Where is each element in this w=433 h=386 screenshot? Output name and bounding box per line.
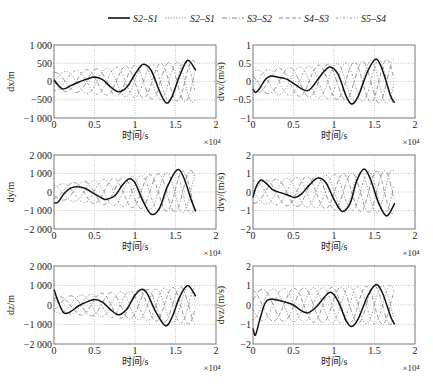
x-tick-label: 1 xyxy=(332,345,337,356)
y-tick-label: 0 xyxy=(246,300,251,311)
series-line-main xyxy=(54,285,196,325)
y-tick-label: 1 xyxy=(246,40,251,51)
x-tick-label: 1.5 xyxy=(169,230,182,241)
y-tick-label: 1 xyxy=(246,168,251,179)
y-tick-label: −2 xyxy=(240,339,251,350)
x-tick-label: 0.5 xyxy=(88,119,101,130)
y-tick-label: −2 000 xyxy=(24,224,52,235)
y-tick-label: 1 000 xyxy=(30,168,53,179)
plot-area xyxy=(253,45,415,118)
y-tick-label: 1 000 xyxy=(30,280,53,291)
x-axis-multiplier: ×10⁴ xyxy=(402,363,419,373)
x-tick-label: 2 xyxy=(413,345,418,356)
x-tick-label: 1.5 xyxy=(368,345,381,356)
x-axis-label: 时间/s xyxy=(122,355,149,367)
y-tick-label: 2 xyxy=(246,150,251,161)
x-tick-label: 1 xyxy=(332,230,337,241)
chart-legend: S2–S1S2–S1S3–S2S4–S3S5–S4 xyxy=(108,11,393,25)
legend-label: S4–S3 xyxy=(304,13,329,24)
y-tick-label: 0 xyxy=(47,76,52,87)
legend-line-dotted-icon xyxy=(165,15,187,21)
series-line-secondary xyxy=(54,172,195,214)
y-tick-label: 2 000 xyxy=(30,150,53,161)
x-tick-label: 1.5 xyxy=(368,230,381,241)
series-line-secondary xyxy=(253,60,394,103)
series-line-secondary xyxy=(253,61,394,104)
chart-dy: 00.511.52−2 000−1 00001 0002 000时间/s×10⁴… xyxy=(0,145,216,260)
y-axis-label: dz/m xyxy=(5,295,16,315)
x-tick-label: 0 xyxy=(251,230,256,241)
x-tick-label: 1.5 xyxy=(169,119,182,130)
chart-dz: 00.511.52−2 000−1 00001 0002 000时间/s×10⁴… xyxy=(0,256,216,376)
y-axis-label: dvz/(m/s) xyxy=(215,286,227,324)
y-tick-label: −1 xyxy=(240,319,251,330)
y-tick-label: 2 000 xyxy=(30,261,53,272)
legend-item: S5–S4 xyxy=(336,13,386,24)
chart-dvz: 00.511.52−2−1012时间/s×10⁴dvz/(m/s) xyxy=(216,256,433,376)
x-tick-label: 0.5 xyxy=(287,345,300,356)
y-tick-label: 0 xyxy=(246,76,251,87)
x-axis-label: 时间/s xyxy=(321,129,348,141)
x-axis-label: 时间/s xyxy=(321,240,348,252)
x-tick-label: 0.5 xyxy=(287,230,300,241)
x-tick-label: 1 xyxy=(133,119,138,130)
x-tick-label: 0 xyxy=(251,119,256,130)
y-tick-label: −2 000 xyxy=(24,339,52,350)
series-line-secondary xyxy=(54,61,195,100)
series-line-secondary xyxy=(54,286,195,322)
chart-dvy: 00.511.52−2−1012时间/s×10⁴dvy/(m/s) xyxy=(216,145,433,260)
legend-line-solid-icon xyxy=(108,15,130,21)
x-tick-label: 1 xyxy=(332,119,337,130)
y-tick-label: 500 xyxy=(37,58,52,69)
plot-area xyxy=(54,266,216,344)
legend-line-dashdot2-icon xyxy=(336,15,358,21)
legend-item: S4–S3 xyxy=(279,13,329,24)
series-line-secondary xyxy=(54,170,195,212)
x-axis-label: 时间/s xyxy=(321,355,348,367)
x-tick-label: 1 xyxy=(133,230,138,241)
y-tick-label: 0 xyxy=(246,187,251,198)
chart-dx: 00.511.52−1 000−50005001 000时间/s×10⁴dx/m xyxy=(0,30,216,145)
y-axis-label: dvy/(m/s) xyxy=(215,173,227,212)
legend-label: S3–S2 xyxy=(247,13,272,24)
legend-item: S2–S1 xyxy=(165,13,215,24)
y-axis-label: dy/m xyxy=(5,182,16,203)
x-axis-label: 时间/s xyxy=(122,240,149,252)
x-tick-label: 2 xyxy=(413,230,418,241)
series-line-secondary xyxy=(54,173,195,213)
plot-area xyxy=(54,45,216,118)
y-tick-label: 1 000 xyxy=(30,40,53,51)
plot-area xyxy=(253,266,415,344)
legend-label: S2–S1 xyxy=(133,13,158,24)
x-tick-label: 1.5 xyxy=(368,119,381,130)
series-line-secondary xyxy=(54,287,195,323)
y-tick-label: 0 xyxy=(47,300,52,311)
y-tick-label: −0.5 xyxy=(233,94,251,105)
y-tick-label: −1 000 xyxy=(24,205,52,216)
legend-label: S2–S1 xyxy=(190,13,215,24)
chart-dvx: 00.511.52−1−0.500.51时间/s×10⁴dvx/(m/s) xyxy=(216,30,433,145)
x-tick-label: 1 xyxy=(133,345,138,356)
y-tick-label: −1 000 xyxy=(24,113,52,124)
series-line-secondary xyxy=(253,60,394,104)
x-tick-label: 1.5 xyxy=(169,345,182,356)
y-tick-label: −1 xyxy=(240,113,251,124)
legend-line-dashdot-icon xyxy=(222,15,244,21)
x-tick-label: 0 xyxy=(52,345,57,356)
y-tick-label: 0.5 xyxy=(239,58,252,69)
legend-item: S2–S1 xyxy=(108,13,158,24)
x-tick-label: 0.5 xyxy=(88,230,101,241)
y-tick-label: −500 xyxy=(31,94,52,105)
x-tick-label: 0.5 xyxy=(88,345,101,356)
y-tick-label: −1 xyxy=(240,205,251,216)
x-tick-label: 2 xyxy=(413,119,418,130)
y-tick-label: −1 000 xyxy=(24,319,52,330)
x-tick-label: 0 xyxy=(251,345,256,356)
y-tick-label: 2 xyxy=(246,261,251,272)
x-tick-label: 0.5 xyxy=(287,119,300,130)
plot-area xyxy=(253,155,415,229)
series-line-secondary xyxy=(253,59,394,103)
legend-line-dashed-icon xyxy=(279,15,301,21)
x-tick-label: 0 xyxy=(52,119,57,130)
y-tick-label: 0 xyxy=(47,187,52,198)
